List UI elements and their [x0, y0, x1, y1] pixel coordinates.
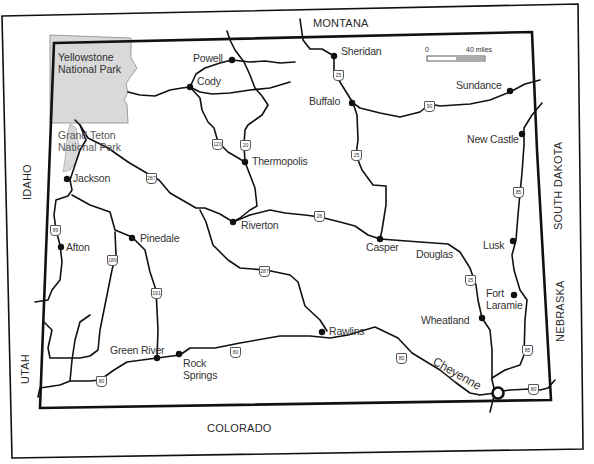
us-shield-85: 85 [513, 187, 524, 198]
park-label-line: Yellowstone [58, 52, 121, 64]
city-label-douglas: Douglas [416, 249, 453, 261]
us-shield-20: 20 [240, 140, 251, 151]
scale-end-label: 40 miles [466, 46, 492, 54]
city-label-rock-springs: Rock Springs [183, 358, 217, 381]
city-label-thermopolis: Thermopolis [252, 156, 308, 168]
us-shield-26: 26 [314, 211, 325, 222]
us-shield-287: 287 [259, 266, 270, 277]
interstate-shield-90: 90 [424, 101, 435, 112]
city-label-casper: Casper [366, 242, 399, 254]
us-shield-85: 85 [522, 345, 533, 356]
us-shield-189: 189 [107, 255, 118, 266]
us-shield-191: 191 [151, 288, 162, 299]
city-label-cody: Cody [197, 76, 221, 88]
park-label-line: National Park [58, 142, 121, 154]
park-label-line: Grand Teton [58, 130, 121, 142]
state-label-colorado: COLORADO [207, 422, 272, 434]
city-label-wheatland: Wheatland [421, 315, 469, 327]
city-label-afton: Afton [66, 242, 90, 254]
state-label-montana: MONTANA [313, 17, 369, 29]
interstate-shield-80: 80 [230, 347, 241, 358]
park-label-line: National Park [58, 64, 121, 76]
city-label-powell: Powell [193, 53, 223, 65]
us-shield-120: 120 [212, 139, 223, 150]
yellowstone-park-area [50, 35, 137, 123]
city-label-green-river: Green River [110, 345, 164, 357]
park-label-grand-teton: Grand Teton National Park [58, 130, 121, 153]
city-label-sundance: Sundance [456, 80, 502, 92]
city-label-sheridan: Sheridan [341, 46, 381, 58]
city-label-new-castle: New Castle [467, 134, 519, 146]
interstate-shield-80: 80 [528, 384, 539, 395]
city-label-riverton: Riverton [241, 220, 279, 232]
interstate-shield-25: 25 [351, 150, 362, 161]
capital-marker [493, 388, 504, 399]
interstate-shield-25: 25 [333, 70, 344, 81]
city-label-line: Springs [183, 370, 217, 382]
state-label-idaho: IDAHO [21, 164, 33, 200]
city-label-line: Rock [183, 358, 217, 370]
city-label-pinedale: Pinedale [140, 233, 179, 245]
city-label-jackson: Jackson [73, 173, 110, 185]
interstate-shield-25: 25 [465, 275, 476, 286]
us-shield-287: 287 [146, 173, 157, 184]
city-label-line: Fort [486, 288, 523, 300]
city-label-line: Laramie [486, 300, 523, 312]
city-label-fort-laramie: Fort Laramie [486, 288, 523, 311]
state-label-south-dakota: SOUTH DAKOTA [552, 142, 564, 230]
city-label-rawlins: Rawlins [329, 326, 364, 338]
park-label-yellowstone: Yellowstone National Park [58, 52, 121, 75]
us-shield-89: 89 [50, 225, 61, 236]
state-label-utah: UTAH [19, 354, 31, 384]
state-label-nebraska: NEBRASKA [554, 280, 566, 342]
interstate-shield-80: 80 [96, 376, 107, 387]
city-label-lusk: Lusk [483, 240, 504, 252]
scale-start-label: 0 [425, 46, 429, 54]
interstate-shield-80: 80 [396, 353, 407, 364]
city-label-buffalo: Buffalo [309, 96, 340, 108]
